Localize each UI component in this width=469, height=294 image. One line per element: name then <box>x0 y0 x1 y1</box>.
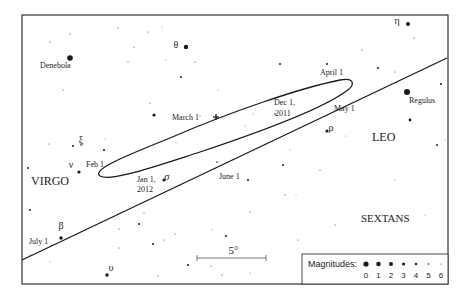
star-label: υ <box>109 262 114 273</box>
legend-magnitude: 3 <box>401 271 406 280</box>
field-star <box>195 62 196 63</box>
field-star <box>218 90 219 91</box>
field-star <box>296 195 297 196</box>
field-star <box>282 164 284 166</box>
field-star <box>222 275 223 276</box>
legend-magnitude: 1 <box>376 271 381 280</box>
star-dot <box>67 55 73 61</box>
field-star <box>134 47 135 48</box>
field-star <box>298 240 299 241</box>
field-star <box>200 116 201 117</box>
field-star <box>290 150 291 151</box>
field-star <box>166 60 167 61</box>
field-star <box>118 28 119 29</box>
field-star <box>320 170 321 171</box>
field-star <box>63 90 64 91</box>
legend-dot <box>376 262 381 267</box>
constellation-label: SEXTANS <box>361 212 410 224</box>
star-dot <box>404 89 410 95</box>
field-star <box>409 119 412 122</box>
scale-bar-label: 5° <box>229 244 239 256</box>
date-label: March 1 <box>172 113 199 122</box>
magnitude-legend: Magnitudes: 0123456 <box>302 254 448 284</box>
field-star <box>180 76 182 78</box>
field-star <box>445 140 446 141</box>
star-dot <box>184 45 188 49</box>
field-star <box>119 248 120 249</box>
constellation-label: VIRGO <box>31 174 69 188</box>
field-star <box>158 276 159 277</box>
star-label: σ <box>164 171 170 182</box>
star-label: Denebola <box>40 61 71 70</box>
field-star <box>148 32 149 33</box>
legend-magnitude: 4 <box>414 271 419 280</box>
field-star <box>247 179 249 181</box>
field-star <box>425 215 426 216</box>
legend-magnitude: 2 <box>389 271 394 280</box>
legend-magnitude: 0 <box>364 271 369 280</box>
field-star <box>211 266 212 267</box>
field-star <box>360 200 361 201</box>
legend-dot <box>415 263 417 265</box>
field-star <box>212 230 213 231</box>
date-label: June 1 <box>219 172 240 181</box>
star-label: ν <box>69 159 74 170</box>
date-label: 2012 <box>137 185 153 194</box>
field-star <box>346 136 347 137</box>
field-star <box>250 212 251 213</box>
star-dot <box>77 170 80 173</box>
star-dot <box>406 22 410 26</box>
date-label: July 1 <box>29 237 48 246</box>
date-label: May 1 <box>334 104 355 113</box>
star-dot <box>59 236 62 239</box>
star-label: β <box>58 220 63 231</box>
legend-dot <box>441 264 442 265</box>
field-star <box>176 143 177 144</box>
field-star <box>105 139 106 140</box>
legend-dot <box>389 262 393 266</box>
date-label: 2011 <box>275 109 291 118</box>
date-label: Jan 1, <box>137 175 156 184</box>
legend-dot <box>428 263 430 265</box>
field-star <box>128 62 129 63</box>
legend-dot <box>363 261 368 266</box>
field-star <box>162 27 163 28</box>
legend-magnitude: 6 <box>439 271 444 280</box>
field-star <box>27 167 29 169</box>
date-label: Dec 1, <box>274 98 295 107</box>
field-star <box>152 113 155 116</box>
field-star <box>285 195 286 196</box>
field-star <box>436 144 438 146</box>
star-label: θ <box>174 39 179 50</box>
field-star <box>50 262 51 263</box>
field-star <box>395 72 396 73</box>
field-star <box>187 264 189 266</box>
field-star <box>150 103 151 104</box>
field-star <box>29 209 31 211</box>
legend-magnitude: 5 <box>426 271 431 280</box>
field-star <box>164 240 165 241</box>
field-star <box>245 126 246 127</box>
field-star <box>144 213 145 214</box>
star-label: Regulus <box>409 96 435 105</box>
field-star <box>175 234 176 235</box>
field-star <box>395 180 396 181</box>
star-label: η <box>394 15 399 26</box>
star-label: ξ <box>79 134 84 146</box>
field-star <box>138 223 140 225</box>
field-star <box>440 83 442 85</box>
field-star <box>152 243 154 245</box>
star-chart: DenebolaRegulusθηρσνξβυ March 1April 1Ma… <box>0 0 469 294</box>
field-star <box>279 63 281 65</box>
field-star <box>414 38 415 39</box>
field-star <box>375 94 376 95</box>
field-star <box>50 42 51 43</box>
legend-dot <box>402 262 405 265</box>
field-star <box>49 144 50 145</box>
star-dot <box>105 273 108 276</box>
star-label: ρ <box>329 122 334 133</box>
field-star <box>72 145 74 147</box>
field-star <box>253 114 254 115</box>
field-star <box>225 235 227 237</box>
field-star <box>70 34 71 35</box>
